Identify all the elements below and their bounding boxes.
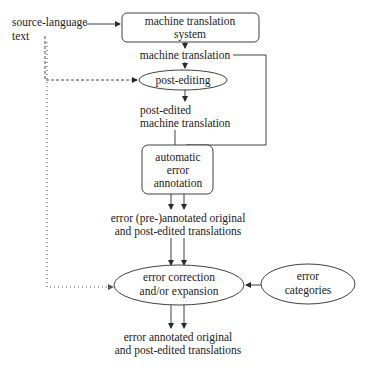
auto-annotation-box: automatic error annotation bbox=[142, 145, 213, 194]
error-categories-node: error categories bbox=[261, 264, 355, 304]
final-output-label-1: error annotated original bbox=[124, 331, 233, 344]
error-correction-node: error correction and/or expansion bbox=[114, 265, 244, 305]
dotted-arrowhead bbox=[108, 284, 114, 290]
post-editing-label: post-editing bbox=[156, 74, 211, 87]
mt-output-label: machine translation bbox=[140, 49, 231, 61]
edge-mt-to-annotation bbox=[186, 55, 266, 151]
auto-annotation-label-1: automatic bbox=[155, 151, 200, 163]
source-language-text: source-language text bbox=[12, 16, 87, 42]
pre-annotated-label-2: and post-edited translations bbox=[115, 225, 242, 238]
post-edited-label-1: post-edited bbox=[140, 104, 191, 117]
auto-annotation-label-2: error bbox=[167, 164, 190, 176]
post-edited-label-2: machine translation bbox=[140, 117, 231, 129]
mt-system-label-2: system bbox=[174, 28, 206, 41]
pre-annotated-label-1: error (pre-)annotated original bbox=[111, 212, 246, 225]
source-text-line1: source-language bbox=[12, 16, 87, 29]
final-output-label-2: and post-edited translations bbox=[115, 344, 242, 357]
mt-system-box: machine translation system bbox=[122, 13, 259, 42]
error-correction-label-2: and/or expansion bbox=[140, 285, 219, 298]
source-text-line2: text bbox=[12, 30, 30, 42]
error-categories-label-2: categories bbox=[285, 284, 332, 297]
workflow-diagram: source-language text machine translation… bbox=[0, 0, 371, 368]
error-correction-label-1: error correction bbox=[143, 271, 215, 283]
edge-source-to-correction bbox=[47, 42, 112, 287]
error-categories-label-1: error bbox=[297, 270, 320, 282]
mt-system-label-1: machine translation bbox=[145, 15, 236, 27]
auto-annotation-label-3: annotation bbox=[154, 177, 203, 189]
post-editing-node: post-editing bbox=[139, 70, 227, 90]
edge-source-to-postedit bbox=[45, 36, 137, 80]
